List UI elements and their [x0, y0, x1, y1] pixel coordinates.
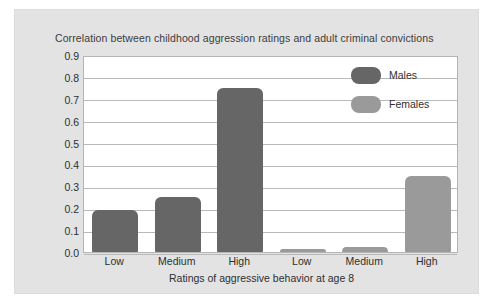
chart-figure: Correlation between childhood aggression…	[0, 0, 493, 303]
y-axis-tick-labels: 0.90.80.70.60.50.40.30.20.10.0	[43, 56, 79, 253]
x-axis-tick-labels: LowMediumHighLowMediumHigh	[83, 255, 458, 271]
y-axis-tick-label: 0.2	[45, 203, 79, 215]
y-axis-tick-label: 0.8	[45, 72, 79, 84]
legend-swatch-females-icon	[351, 96, 381, 113]
legend-label: Females	[389, 98, 429, 110]
y-axis-tick-label: 0.7	[45, 94, 79, 106]
bar-females-high	[405, 176, 451, 252]
legend-swatch-males-icon	[351, 67, 381, 84]
chart-title: Correlation between childhood aggression…	[55, 32, 434, 44]
bar-males-high	[217, 88, 263, 252]
bar-males-low	[92, 210, 138, 252]
legend-item-males[interactable]: Males	[351, 67, 455, 86]
y-axis-tick-label: 0.3	[45, 181, 79, 193]
y-axis-tick-label: 0.9	[45, 50, 79, 62]
y-axis-tick-label: 0.5	[45, 138, 79, 150]
x-axis-title: Ratings of aggressive behavior at age 8	[15, 272, 493, 284]
legend-item-females[interactable]: Females	[351, 96, 455, 115]
y-axis-tick-label: 0.4	[45, 159, 79, 171]
chart-panel: Correlation between childhood aggression…	[14, 9, 479, 294]
y-axis-tick-label: 0.1	[45, 225, 79, 237]
y-axis-tick-label: 0.6	[45, 116, 79, 128]
legend-label: Males	[389, 69, 417, 81]
bar-females-low	[280, 249, 326, 252]
bar-females-medium	[342, 247, 388, 252]
chart-legend: MalesFemales	[351, 67, 455, 115]
bar-males-medium	[155, 197, 201, 252]
x-axis-tick-label: High	[387, 255, 467, 267]
